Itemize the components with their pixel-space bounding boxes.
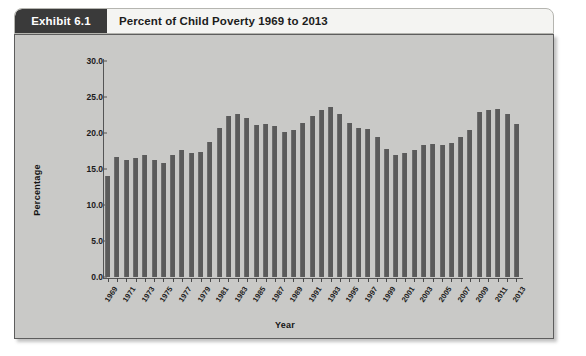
x-tick-mark (293, 278, 294, 282)
x-tick-mark (210, 278, 211, 282)
x-tick-mark (349, 278, 350, 282)
x-tick-mark (321, 278, 322, 282)
x-tick-label: 2001 (400, 285, 417, 304)
bar (282, 132, 287, 277)
x-tick-mark (358, 278, 359, 282)
x-tick-mark (414, 278, 415, 282)
bar (142, 155, 147, 277)
x-tick-mark (451, 278, 452, 282)
x-tick-label: 2013 (511, 285, 528, 304)
x-axis-title: Year (15, 320, 555, 330)
x-tick-label: 1977 (177, 285, 194, 304)
bar (207, 142, 212, 277)
bar (514, 124, 519, 277)
x-tick-mark (191, 278, 192, 282)
bar (272, 126, 277, 277)
x-tick-mark (303, 278, 304, 282)
x-tick-mark (145, 278, 146, 282)
x-tick-mark (498, 278, 499, 282)
bar (477, 112, 482, 277)
bar (254, 125, 259, 277)
x-tick-mark (117, 278, 118, 282)
x-tick-mark (340, 278, 341, 282)
x-tick-mark (442, 278, 443, 282)
y-tick-label: 25.0 (15, 92, 110, 102)
x-tick-mark (108, 278, 109, 282)
x-tick-label: 1999 (381, 285, 398, 304)
bar (347, 123, 352, 277)
bar (133, 158, 138, 277)
x-tick-label: 1995 (344, 285, 361, 304)
x-tick-mark (331, 278, 332, 282)
x-tick-label: 1969 (102, 285, 119, 304)
x-tick-mark (182, 278, 183, 282)
x-tick-label: 1989 (288, 285, 305, 304)
x-tick-label: 1993 (325, 285, 342, 304)
x-tick-mark (136, 278, 137, 282)
exhibit-header: Exhibit 6.1 Percent of Child Poverty 196… (14, 8, 554, 34)
y-tick-label: 0.0 (15, 272, 110, 282)
x-tick-label: 1973 (139, 285, 156, 304)
y-tick-label: 30.0 (15, 56, 110, 66)
bars-region (103, 61, 521, 277)
bar (421, 145, 426, 277)
bar (114, 157, 119, 277)
x-tick-mark (238, 278, 239, 282)
bar (495, 109, 500, 277)
bar (505, 114, 510, 277)
bar (310, 116, 315, 277)
bar (217, 128, 222, 277)
x-tick-label: 1971 (121, 285, 138, 304)
bar (402, 153, 407, 277)
bar (328, 107, 333, 277)
x-tick-mark (173, 278, 174, 282)
x-tick-label: 2007 (455, 285, 472, 304)
bar (486, 110, 491, 277)
exhibit-page: Exhibit 6.1 Percent of Child Poverty 196… (0, 0, 586, 356)
bar (105, 176, 110, 277)
x-tick-mark (163, 278, 164, 282)
bar (384, 149, 389, 277)
x-tick-mark (433, 278, 434, 282)
x-tick-label: 1979 (195, 285, 212, 304)
x-tick-mark (312, 278, 313, 282)
exhibit-number-tab: Exhibit 6.1 (15, 9, 107, 33)
x-tick-mark (126, 278, 127, 282)
x-tick-mark (405, 278, 406, 282)
x-tick-label: 2003 (418, 285, 435, 304)
x-tick-mark (507, 278, 508, 282)
exhibit-title: Percent of Child Poverty 1969 to 2013 (107, 9, 553, 33)
bar (152, 160, 157, 277)
bar (198, 152, 203, 277)
y-tick-label: 15.0 (15, 164, 110, 174)
x-tick-mark (266, 278, 267, 282)
x-tick-mark (368, 278, 369, 282)
x-tick-label: 2009 (474, 285, 491, 304)
bar (244, 118, 249, 277)
x-tick-label: 1975 (158, 285, 175, 304)
bar (440, 145, 445, 277)
y-tick-label: 20.0 (15, 128, 110, 138)
bar (467, 130, 472, 277)
bar (375, 137, 380, 277)
bar (458, 137, 463, 277)
x-tick-mark (256, 278, 257, 282)
y-tick-label: 10.0 (15, 200, 110, 210)
x-tick-mark (377, 278, 378, 282)
x-tick-label: 1991 (307, 285, 324, 304)
bar (235, 114, 240, 277)
x-tick-mark (470, 278, 471, 282)
bar (319, 110, 324, 277)
chart-panel: Percentage Year 0.05.010.015.020.025.030… (14, 34, 554, 339)
x-tick-mark (516, 278, 517, 282)
bar (356, 128, 361, 277)
bar (161, 163, 166, 277)
x-tick-mark (386, 278, 387, 282)
y-tick-label: 5.0 (15, 236, 110, 246)
x-tick-label: 1983 (232, 285, 249, 304)
plot-area: Percentage Year 0.05.010.015.020.025.030… (15, 35, 555, 340)
x-tick-label: 1985 (251, 285, 268, 304)
bar (337, 114, 342, 277)
x-tick-mark (461, 278, 462, 282)
bar (170, 155, 175, 277)
